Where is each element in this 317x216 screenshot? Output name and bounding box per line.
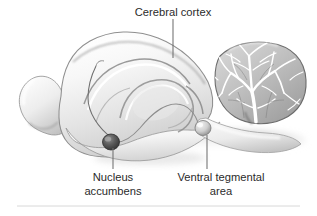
label-nucleus-accumbens-line2: accumbens bbox=[84, 185, 142, 197]
label-ventral-tegmental-area-line1: Ventral tegmental bbox=[177, 171, 264, 183]
label-ventral-tegmental-area-line2: area bbox=[210, 185, 233, 197]
label-nucleus-accumbens-line1: Nucleus bbox=[93, 171, 134, 183]
ventral-tegmental-area-nucleus bbox=[195, 121, 211, 136]
brain-diagram-canvas: Cerebral cortex Nucleus accumbens Ventra… bbox=[0, 0, 317, 216]
nucleus-accumbens-nucleus bbox=[103, 134, 120, 150]
label-cerebral-cortex: Cerebral cortex bbox=[135, 6, 212, 18]
cerebellum bbox=[207, 41, 306, 124]
brain-diagram-figure: Cerebral cortex Nucleus accumbens Ventra… bbox=[0, 0, 317, 216]
